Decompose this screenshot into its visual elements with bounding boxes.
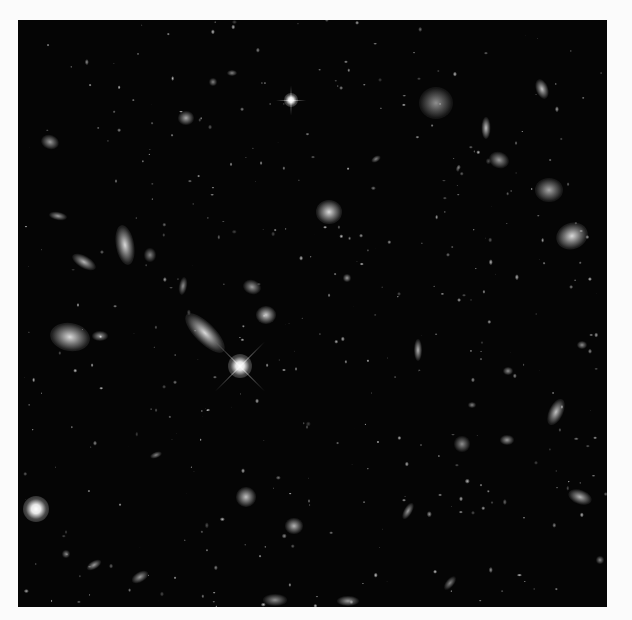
faint-galaxy	[202, 416, 204, 417]
faint-galaxy	[339, 86, 343, 90]
faint-galaxy	[431, 124, 434, 128]
faint-galaxy	[302, 422, 304, 424]
faint-galaxy	[594, 368, 598, 370]
faint-galaxy	[503, 499, 507, 505]
faint-galaxy	[468, 146, 472, 149]
faint-galaxy	[373, 42, 377, 44]
faint-galaxy	[455, 166, 459, 172]
faint-galaxy	[543, 262, 546, 265]
faint-galaxy	[402, 94, 406, 96]
faint-galaxy	[402, 499, 406, 502]
faint-galaxy	[469, 350, 472, 352]
faint-galaxy	[522, 131, 524, 133]
faint-galaxy	[407, 566, 408, 567]
faint-galaxy	[336, 441, 340, 444]
faint-galaxy	[282, 533, 286, 538]
faint-galaxy	[420, 335, 422, 336]
faint-galaxy	[282, 368, 286, 371]
faint-galaxy	[537, 215, 539, 217]
faint-galaxy	[201, 410, 203, 413]
faint-galaxy	[118, 128, 122, 132]
faint-galaxy	[128, 588, 132, 592]
galaxy	[454, 436, 470, 452]
faint-galaxy	[441, 293, 444, 295]
faint-galaxy	[356, 261, 358, 263]
faint-galaxy	[274, 90, 275, 91]
faint-galaxy	[154, 408, 157, 412]
faint-galaxy	[539, 259, 541, 260]
faint-galaxy	[590, 409, 591, 410]
faint-galaxy	[139, 547, 140, 548]
faint-galaxy	[316, 595, 319, 598]
faint-galaxy	[319, 333, 321, 336]
galaxy	[144, 248, 156, 262]
faint-galaxy	[42, 415, 43, 416]
faint-galaxy	[265, 364, 268, 368]
faint-galaxy	[556, 486, 558, 489]
faint-galaxy	[480, 351, 482, 352]
faint-galaxy	[176, 432, 177, 434]
galaxy	[209, 78, 217, 86]
galaxy	[62, 550, 70, 558]
faint-galaxy	[58, 351, 61, 355]
faint-galaxy	[90, 446, 93, 448]
faint-galaxy	[471, 511, 475, 515]
faint-galaxy	[149, 149, 151, 150]
faint-galaxy	[217, 235, 220, 240]
faint-galaxy	[197, 359, 199, 361]
faint-galaxy	[136, 217, 138, 219]
faint-galaxy	[259, 161, 262, 165]
faint-galaxy	[89, 84, 92, 87]
faint-galaxy	[167, 32, 169, 35]
faint-galaxy	[427, 511, 431, 517]
faint-galaxy	[47, 44, 50, 47]
faint-galaxy	[308, 503, 311, 506]
faint-galaxy	[214, 21, 216, 23]
faint-galaxy	[549, 448, 551, 450]
faint-galaxy	[510, 352, 511, 353]
faint-galaxy	[171, 439, 173, 440]
faint-galaxy	[299, 256, 303, 261]
faint-galaxy	[318, 58, 320, 59]
faint-galaxy	[580, 512, 584, 517]
faint-galaxy	[150, 408, 152, 410]
faint-galaxy	[451, 506, 453, 507]
faint-galaxy	[261, 81, 263, 84]
faint-galaxy	[324, 20, 328, 22]
faint-galaxy	[579, 482, 581, 484]
faint-galaxy	[471, 377, 475, 382]
faint-galaxy	[555, 470, 557, 472]
faint-galaxy	[530, 187, 533, 190]
faint-galaxy	[522, 363, 525, 366]
faint-galaxy	[288, 583, 291, 587]
faint-galaxy	[30, 147, 31, 149]
faint-galaxy	[91, 363, 94, 367]
faint-galaxy	[473, 150, 475, 152]
faint-galaxy	[367, 467, 369, 469]
faint-galaxy	[162, 233, 166, 237]
faint-galaxy	[328, 294, 331, 297]
faint-galaxy	[515, 274, 519, 280]
faint-galaxy	[153, 347, 154, 348]
faint-galaxy	[95, 324, 96, 325]
faint-galaxy	[510, 190, 512, 192]
faint-galaxy	[590, 333, 594, 336]
faint-galaxy	[443, 197, 447, 200]
faint-galaxy	[465, 479, 469, 484]
faint-galaxy	[31, 428, 33, 430]
galaxy	[85, 558, 103, 573]
faint-galaxy	[23, 472, 27, 476]
faint-galaxy	[64, 530, 67, 534]
faint-galaxy	[397, 296, 399, 299]
faint-galaxy	[193, 471, 195, 472]
faint-galaxy	[24, 377, 26, 378]
faint-galaxy	[271, 231, 275, 236]
faint-galaxy	[229, 163, 232, 166]
faint-galaxy	[118, 503, 121, 507]
faint-galaxy	[55, 466, 56, 468]
faint-galaxy	[334, 79, 338, 81]
faint-galaxy	[284, 228, 287, 230]
faint-galaxy	[588, 349, 592, 353]
faint-galaxy	[151, 104, 152, 105]
faint-galaxy	[232, 24, 236, 29]
